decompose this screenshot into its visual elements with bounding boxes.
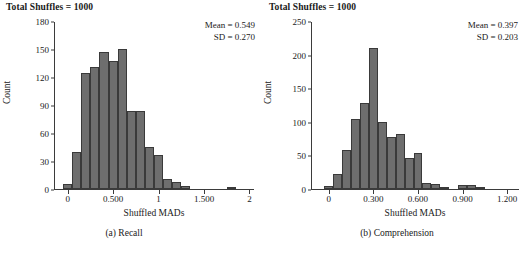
recall-xtick-label: 0.500 (103, 194, 123, 204)
comprehension-xtick-mark (507, 190, 508, 194)
y-axis-line-recall (54, 22, 55, 190)
histogram-bar (360, 103, 369, 189)
histogram-bar (342, 150, 351, 189)
histogram-bar (414, 153, 423, 189)
recall-xtick-mark (68, 190, 69, 194)
recall-xtick-label: 2 (247, 194, 252, 204)
comprehension-xtick-label: 1.200 (497, 194, 517, 204)
histogram-bar (369, 48, 378, 189)
figure-root: Total Shuffles = 1000 Mean = 0.549 SD = … (0, 0, 526, 257)
histogram-bar (99, 52, 108, 189)
x-axis-line-comprehension (311, 189, 519, 190)
y-axis-line-comprehension (311, 22, 312, 190)
recall-ytick-mark (51, 134, 54, 135)
histogram-bar (396, 134, 405, 189)
comprehension-xtick-mark (373, 190, 374, 194)
panel-comprehension: Total Shuffles = 1000 Mean = 0.397 SD = … (263, 0, 526, 257)
comprehension-xtick-label: 0.600 (408, 194, 428, 204)
comprehension-ytick-mark (308, 22, 311, 23)
x-axis-line-recall (54, 189, 254, 190)
histogram-bar (172, 182, 181, 189)
histogram-bar (136, 111, 145, 189)
panel-title-comprehension: Total Shuffles = 1000 (269, 2, 356, 12)
x-axis-label-recall: Shuffled MADs (54, 208, 254, 218)
histogram-bar (127, 111, 136, 189)
histogram-bar (324, 186, 333, 189)
histogram-bar (90, 67, 99, 189)
y-axis-label-recall: Count (2, 81, 12, 104)
histogram-bar (118, 49, 127, 189)
plot-area-recall: 030609012015018000.50011.5002 (54, 22, 254, 190)
histogram-bar (476, 187, 485, 189)
histogram-bar (431, 184, 440, 189)
comprehension-ytick-mark (308, 122, 311, 123)
y-axis-label-comprehension: Count (263, 81, 273, 104)
recall-xtick-mark (159, 190, 160, 194)
histogram-bar (467, 185, 476, 189)
comprehension-ytick-mark (308, 55, 311, 56)
panel-caption-recall: (a) Recall (24, 228, 224, 238)
comprehension-xtick-label: 0 (327, 194, 332, 204)
recall-xtick-mark (249, 190, 250, 194)
histogram-bar (458, 185, 467, 189)
histogram-bar (227, 187, 236, 189)
histogram-bar (145, 147, 154, 189)
histogram-bar (163, 179, 172, 189)
panel-recall: Total Shuffles = 1000 Mean = 0.549 SD = … (0, 0, 263, 257)
comprehension-ytick-mark (308, 190, 311, 191)
histogram-bar (72, 152, 81, 189)
histogram-bar (181, 186, 190, 189)
comprehension-ytick-mark (308, 89, 311, 90)
histogram-bar (109, 61, 118, 189)
histogram-bar (378, 122, 387, 189)
recall-ytick-mark (51, 78, 54, 79)
recall-ytick-mark (51, 106, 54, 107)
x-axis-label-comprehension: Shuffled MADs (311, 208, 519, 218)
comprehension-xtick-label: 0.300 (363, 194, 383, 204)
histogram-bar (63, 184, 72, 189)
histogram-bar (387, 137, 396, 189)
recall-ytick-mark (51, 22, 54, 23)
histogram-bar (333, 174, 342, 189)
histogram-bar (405, 158, 414, 189)
comprehension-ytick-mark (308, 156, 311, 157)
histogram-bar (81, 73, 90, 189)
recall-xtick-mark (113, 190, 114, 194)
recall-ytick-mark (51, 50, 54, 51)
comprehension-xtick-mark (418, 190, 419, 194)
comprehension-xtick-mark (329, 190, 330, 194)
histogram-bar (422, 183, 431, 189)
recall-ytick-mark (51, 162, 54, 163)
recall-ytick-mark (51, 190, 54, 191)
histogram-bar (351, 119, 360, 189)
panel-title-recall: Total Shuffles = 1000 (6, 2, 93, 12)
plot-area-comprehension: 05010015020025000.3000.6000.9001.200 (311, 22, 519, 190)
panel-caption-comprehension: (b) Comprehension (293, 228, 501, 238)
comprehension-xtick-mark (463, 190, 464, 194)
recall-xtick-label: 1 (156, 194, 161, 204)
recall-xtick-label: 1.500 (194, 194, 214, 204)
comprehension-xtick-label: 0.900 (452, 194, 472, 204)
histogram-bar (440, 187, 449, 189)
histogram-bar (154, 155, 163, 189)
recall-xtick-mark (204, 190, 205, 194)
recall-xtick-label: 0 (65, 194, 70, 204)
